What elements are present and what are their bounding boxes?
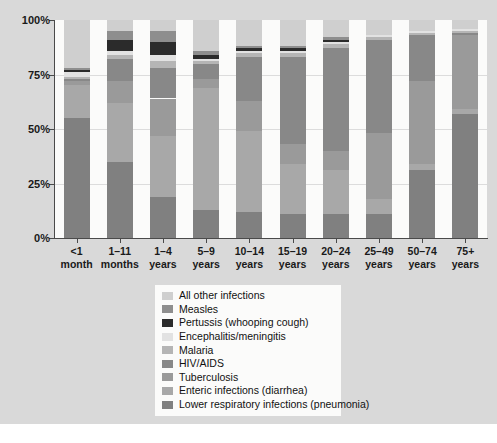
- bar-segment[interactable]: [150, 197, 176, 238]
- bar-segment[interactable]: [193, 88, 219, 210]
- bar-segment[interactable]: [193, 210, 219, 238]
- bar-segment[interactable]: [409, 170, 435, 238]
- bar-segment[interactable]: [323, 48, 349, 150]
- bar-segment[interactable]: [452, 33, 478, 35]
- bar-segment[interactable]: [150, 61, 176, 68]
- bar-segment[interactable]: [107, 31, 133, 40]
- bar-segment[interactable]: [452, 35, 478, 109]
- bar-segment[interactable]: [107, 103, 133, 162]
- bar-column[interactable]: [366, 20, 392, 238]
- bar-segment[interactable]: [323, 170, 349, 214]
- bar-segment[interactable]: [193, 64, 219, 79]
- bar-segment[interactable]: [366, 199, 392, 214]
- bar-segment[interactable]: [236, 212, 262, 238]
- bar-segment[interactable]: [366, 214, 392, 238]
- bar-segment[interactable]: [323, 40, 349, 42]
- bar-segment[interactable]: [236, 57, 262, 101]
- bar-segment[interactable]: [366, 35, 392, 37]
- bar-segment[interactable]: [452, 29, 478, 31]
- bar-segment[interactable]: [409, 20, 435, 31]
- bar-segment[interactable]: [323, 151, 349, 171]
- bar-segment[interactable]: [409, 33, 435, 35]
- legend-item[interactable]: Pertussis (whooping cough): [162, 316, 334, 330]
- bar-column[interactable]: [150, 20, 176, 238]
- bar-segment[interactable]: [107, 162, 133, 238]
- bar-segment[interactable]: [366, 133, 392, 198]
- bar-segment[interactable]: [452, 31, 478, 33]
- bar-segment[interactable]: [64, 118, 90, 238]
- legend-item[interactable]: All other infections: [162, 289, 334, 303]
- bar-segment[interactable]: [64, 85, 90, 118]
- bar-segment[interactable]: [193, 20, 219, 51]
- legend-item[interactable]: Tuberculosis: [162, 371, 334, 385]
- bar-segment[interactable]: [323, 37, 349, 39]
- bar-segment[interactable]: [452, 114, 478, 238]
- bar-segment[interactable]: [366, 20, 392, 35]
- legend-item[interactable]: Encephalitis/meningitis: [162, 330, 334, 344]
- legend-item[interactable]: Enteric infections (diarrhea): [162, 384, 334, 398]
- bar-column[interactable]: [107, 20, 133, 238]
- bar-segment[interactable]: [280, 20, 306, 46]
- bar-segment[interactable]: [193, 55, 219, 59]
- bar-segment[interactable]: [64, 81, 90, 85]
- bar-segment[interactable]: [323, 20, 349, 37]
- bar-segment[interactable]: [236, 101, 262, 132]
- bar-segment[interactable]: [150, 20, 176, 31]
- bar-segment[interactable]: [236, 46, 262, 48]
- legend-item[interactable]: Measles: [162, 303, 334, 317]
- bar-segment[interactable]: [280, 51, 306, 53]
- bar-segment[interactable]: [193, 61, 219, 63]
- bar-segment[interactable]: [64, 77, 90, 79]
- bar-segment[interactable]: [323, 214, 349, 238]
- bar-segment[interactable]: [323, 44, 349, 48]
- bar-segment[interactable]: [150, 55, 176, 62]
- bar-segment[interactable]: [366, 37, 392, 39]
- bar-segment[interactable]: [150, 68, 176, 99]
- bar-column[interactable]: [236, 20, 262, 238]
- bar-segment[interactable]: [107, 40, 133, 51]
- bar-segment[interactable]: [280, 214, 306, 238]
- bar-segment[interactable]: [409, 164, 435, 171]
- bar-segment[interactable]: [107, 55, 133, 59]
- bar-segment[interactable]: [236, 51, 262, 53]
- legend-item[interactable]: Malaria: [162, 343, 334, 357]
- bar-column[interactable]: [193, 20, 219, 238]
- bar-column[interactable]: [409, 20, 435, 238]
- bar-segment[interactable]: [193, 79, 219, 88]
- bar-segment[interactable]: [64, 70, 90, 72]
- bar-segment[interactable]: [452, 109, 478, 113]
- bar-segment[interactable]: [236, 48, 262, 50]
- legend-item[interactable]: HIV/AIDS: [162, 357, 334, 371]
- bar-segment[interactable]: [193, 51, 219, 55]
- bar-segment[interactable]: [366, 40, 392, 134]
- bar-segment[interactable]: [280, 46, 306, 48]
- bar-column[interactable]: [280, 20, 306, 238]
- bar-segment[interactable]: [280, 48, 306, 50]
- bar-segment[interactable]: [150, 31, 176, 42]
- bar-segment[interactable]: [64, 79, 90, 81]
- bar-segment[interactable]: [107, 81, 133, 103]
- bar-segment[interactable]: [107, 51, 133, 55]
- bar-segment[interactable]: [409, 31, 435, 33]
- bar-column[interactable]: [323, 20, 349, 238]
- bar-segment[interactable]: [193, 59, 219, 61]
- bar-column[interactable]: [64, 20, 90, 238]
- bar-segment[interactable]: [150, 99, 176, 136]
- bar-segment[interactable]: [409, 81, 435, 164]
- bar-column[interactable]: [452, 20, 478, 238]
- bar-segment[interactable]: [107, 59, 133, 81]
- bar-segment[interactable]: [280, 53, 306, 57]
- bar-segment[interactable]: [150, 136, 176, 197]
- bar-segment[interactable]: [236, 131, 262, 212]
- bar-segment[interactable]: [64, 68, 90, 70]
- bar-segment[interactable]: [64, 20, 90, 68]
- bar-segment[interactable]: [150, 42, 176, 55]
- legend-item[interactable]: Lower respiratory infections (pneumonia): [162, 398, 334, 412]
- bar-segment[interactable]: [452, 20, 478, 29]
- bar-segment[interactable]: [107, 20, 133, 31]
- bar-segment[interactable]: [280, 144, 306, 164]
- bar-segment[interactable]: [236, 20, 262, 46]
- bar-segment[interactable]: [64, 72, 90, 76]
- bar-segment[interactable]: [280, 57, 306, 144]
- bar-segment[interactable]: [323, 42, 349, 44]
